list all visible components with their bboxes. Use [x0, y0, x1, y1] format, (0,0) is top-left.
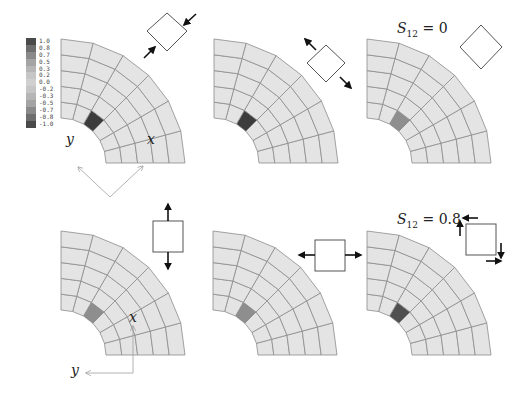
s12-subscript: 12: [407, 220, 418, 230]
s12-subscript: 12: [407, 29, 418, 39]
legend-swatch: [26, 52, 36, 59]
mesh-element: [367, 231, 399, 250]
mesh-panels: [61, 39, 491, 355]
legend-label: -1.0: [39, 121, 53, 128]
legend-swatch: [26, 93, 36, 100]
x-axis-label-p1: x: [147, 131, 155, 147]
s12-value: = 0: [418, 20, 448, 36]
color-legend: 1.00.80.70.50.30.20.0-0.2-0.3-0.5-0.7-0.…: [26, 38, 62, 128]
legend-swatch: [26, 72, 36, 79]
mesh-element: [214, 86, 234, 104]
mesh-element: [318, 323, 337, 355]
element-square: [466, 224, 496, 255]
compression-stress-icon: [144, 13, 196, 58]
legend-swatch: [26, 114, 36, 121]
vertical-tension-stress-icon: [153, 204, 183, 269]
mesh-element: [61, 86, 81, 104]
element-square: [460, 25, 502, 69]
unloaded-element-icon: [460, 25, 502, 69]
element-square: [147, 13, 187, 51]
legend-row: -1.0: [26, 121, 62, 128]
s12-symbol: S: [397, 211, 407, 227]
mesh-element: [472, 131, 491, 163]
x-axis-label-p4: x: [129, 309, 137, 325]
mesh-element: [61, 278, 81, 296]
mesh-element: [367, 278, 387, 296]
legend-swatch: [26, 59, 36, 66]
legend-swatch: [26, 38, 36, 45]
tension-diagonal-stress-icon: [305, 39, 351, 88]
horizontal-tension-stress-icon: [299, 240, 361, 271]
legend-swatch: [26, 45, 36, 52]
legend-swatch: [26, 79, 36, 86]
s12-symbol: S: [397, 20, 407, 36]
element-square: [153, 221, 183, 252]
legend-swatch: [26, 66, 36, 73]
legend-swatch: [26, 100, 36, 107]
mesh-element: [214, 39, 246, 58]
legend-swatch: [26, 121, 36, 128]
y-axis-arrow-p1: [78, 167, 110, 197]
pure-shear-stress-icon: [460, 218, 501, 261]
mesh-element: [213, 231, 245, 250]
mesh-element: [166, 131, 185, 163]
y-axis-label-p1: y: [66, 131, 74, 147]
x-axis-arrow-p1: [110, 166, 143, 197]
figure-canvas: [0, 0, 526, 405]
tension-arrow-icon: [340, 77, 351, 88]
mesh-element: [61, 39, 93, 58]
mesh-element: [472, 323, 491, 355]
y-axis-label-p4: y: [71, 362, 79, 378]
s12-point8-label: S12 = 0.8: [397, 211, 461, 230]
s12-zero-label: S12 = 0: [397, 20, 448, 39]
s12-value: = 0.8: [418, 211, 461, 227]
mesh-element: [213, 278, 233, 296]
tension-arrow-icon: [305, 39, 316, 50]
compression-arrow-icon: [144, 47, 155, 58]
mesh-element: [367, 86, 387, 104]
mesh-p1: [61, 39, 185, 163]
legend-swatch: [26, 86, 36, 93]
compression-arrow-icon: [184, 14, 196, 25]
legend-swatch: [26, 107, 36, 114]
mesh-element: [319, 131, 338, 163]
element-square: [315, 240, 345, 271]
mesh-element: [367, 39, 399, 58]
mesh-element: [166, 323, 185, 355]
element-square: [307, 45, 345, 82]
mesh-element: [61, 231, 93, 250]
